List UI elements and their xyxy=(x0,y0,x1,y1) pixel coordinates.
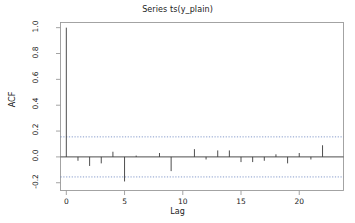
y-tick-label: 0.0 xyxy=(31,142,40,168)
x-tick-label: 0 xyxy=(56,197,76,206)
x-tick-label: 15 xyxy=(231,197,251,206)
x-tick-label: 10 xyxy=(173,197,193,206)
acf-plot-figure: Series ts(y_plain) ACF Lag -0.20.00.20.4… xyxy=(0,0,355,223)
x-tick-label: 5 xyxy=(115,197,135,206)
y-tick-label: 0.8 xyxy=(31,39,40,65)
plot-canvas xyxy=(0,0,355,223)
y-tick-label: -0.2 xyxy=(31,168,40,194)
plot-frame xyxy=(61,23,344,191)
y-tick-label: 0.2 xyxy=(31,117,40,143)
x-axis-ticks xyxy=(66,191,299,196)
y-tick-label: 1.0 xyxy=(31,13,40,39)
y-tick-label: 0.6 xyxy=(31,65,40,91)
x-tick-label: 20 xyxy=(289,197,309,206)
plot-box xyxy=(61,23,344,191)
y-axis-ticks xyxy=(56,28,61,183)
acf-bars xyxy=(66,28,322,182)
y-tick-label: 0.4 xyxy=(31,91,40,117)
